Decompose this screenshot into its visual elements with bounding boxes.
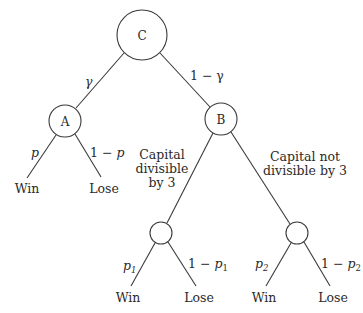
- outcome-b1-lose: Lose: [184, 290, 214, 305]
- prob-one-minus-p: 1 − p: [90, 145, 124, 160]
- node-c-label: C: [137, 29, 146, 43]
- outcome-b2-lose: Lose: [318, 290, 348, 305]
- svg-text:Capital: Capital: [139, 147, 185, 162]
- node-c: C: [117, 10, 167, 60]
- node-a: A: [49, 105, 81, 137]
- svg-text:divisible by 3: divisible by 3: [263, 163, 347, 178]
- node-b: B: [205, 103, 237, 135]
- prob-gamma: γ: [85, 74, 93, 89]
- probability-tree-diagram: C A B γ 1 − γ p 1 − p Win Lose Capital d…: [0, 0, 363, 313]
- outcome-b1-win: Win: [116, 290, 141, 305]
- node-a-label: A: [60, 115, 70, 129]
- edge-b-to-b2: [231, 132, 290, 224]
- prob-p2: p2: [255, 256, 268, 273]
- svg-text:divisible: divisible: [136, 161, 189, 176]
- node-b-label: B: [217, 113, 226, 127]
- node-b2: [286, 222, 308, 244]
- svg-text:Capital not: Capital not: [270, 149, 340, 164]
- edge-b2-to-win: [266, 243, 291, 286]
- prob-one-minus-p2: 1 − p2: [321, 256, 361, 273]
- prob-one-minus-gamma: 1 − γ: [190, 68, 224, 83]
- node-b1: [150, 222, 172, 244]
- outcome-a-win: Win: [15, 181, 40, 196]
- condition-not-divisible-by-3: Capital not divisible by 3: [263, 149, 347, 178]
- svg-text:by 3: by 3: [149, 175, 176, 190]
- prob-one-minus-p1: 1 − p1: [188, 256, 228, 273]
- prob-p1: p1: [123, 258, 136, 275]
- outcome-a-lose: Lose: [89, 181, 119, 196]
- outcome-b2-win: Win: [252, 290, 277, 305]
- prob-p: p: [31, 145, 39, 160]
- condition-divisible-by-3: Capital divisible by 3: [136, 147, 189, 190]
- edge-c-to-a: [76, 53, 124, 108]
